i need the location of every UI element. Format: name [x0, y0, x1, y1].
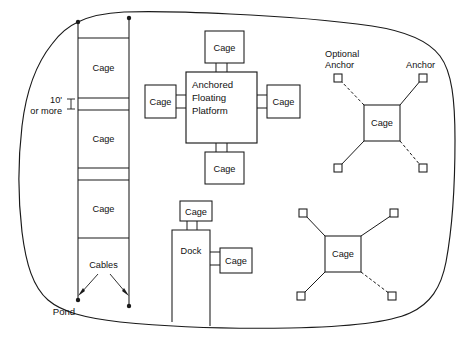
pond-cage-diagram: Cage Cage Cage 10' or more Cables — [0, 0, 471, 348]
anchored-cage-lower-label: Cage — [332, 249, 354, 259]
dock-cage-top-label: Cage — [185, 207, 207, 217]
anchor-upper-bottomright — [419, 164, 427, 172]
platform-label-line1: Anchored — [192, 79, 233, 90]
anchor-label: Anchor — [406, 60, 435, 70]
platform-cage-bottom-label: Cage — [214, 164, 236, 174]
pond-label: Pond — [53, 306, 75, 317]
anchored-cage-upper-label: Cage — [371, 118, 393, 128]
optional-anchor-label-line2: Anchor — [325, 60, 354, 70]
platform-label-line3: Platform — [192, 105, 228, 116]
cables-label: Cables — [89, 260, 118, 270]
dock-cage-right-label: Cage — [225, 256, 247, 266]
cable-shore-anchor-bottom-right — [127, 304, 131, 308]
anchor-lower-bottomright — [388, 292, 396, 300]
cable-cage-label-2: Cage — [93, 134, 115, 144]
cable-shore-anchor-top-left — [76, 20, 80, 24]
optional-anchor-label-line1: Optional — [325, 49, 359, 59]
anchor-lower-topleft — [299, 209, 307, 217]
platform-cage-left-label: Cage — [150, 97, 172, 107]
anchor-upper-bottomleft — [334, 164, 342, 172]
spacing-label-line1: 10' — [50, 95, 62, 105]
cable-shore-anchor-top-right — [127, 16, 131, 20]
dock — [172, 230, 210, 326]
dock-label: Dock — [181, 246, 202, 256]
anchor-upper-topleft — [334, 74, 342, 82]
spacing-label-line2: or more — [30, 106, 62, 116]
anchor-upper-topright — [419, 74, 427, 82]
anchor-lower-topright — [390, 209, 398, 217]
cable-shore-anchor-bottom-left — [76, 298, 80, 302]
platform-cage-right-label: Cage — [273, 97, 295, 107]
platform-cage-top-label: Cage — [214, 43, 236, 53]
platform-label-line2: Floating — [192, 92, 226, 103]
diagram-canvas: Cage Cage Cage 10' or more Cables — [0, 0, 471, 348]
cable-cage-label-3: Cage — [93, 204, 115, 214]
anchor-lower-bottomleft — [297, 292, 305, 300]
cable-cage-label-1: Cage — [93, 63, 115, 73]
